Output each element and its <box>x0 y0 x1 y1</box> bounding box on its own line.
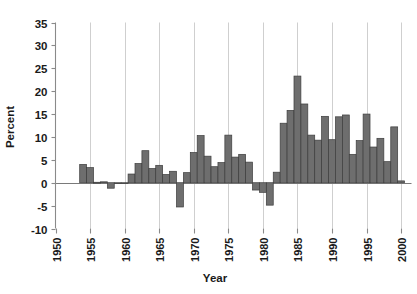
bar <box>197 136 204 183</box>
bar <box>377 138 384 182</box>
y-tick-label: 15 <box>35 109 48 121</box>
bar <box>391 127 398 183</box>
x-axis-title-group: Year <box>203 272 228 284</box>
y-axis-title-group: Percent <box>4 106 16 148</box>
bar <box>170 171 177 182</box>
bar <box>80 164 87 182</box>
x-axis-title: Year <box>203 272 228 284</box>
x-tick-label: 1970 <box>189 238 201 262</box>
bar <box>114 183 121 184</box>
bar <box>100 182 107 183</box>
bar <box>142 151 149 183</box>
bar <box>329 140 336 183</box>
bar <box>384 162 391 183</box>
x-axis-group: 1950195519601965197019751980198519901995… <box>51 229 408 262</box>
x-tick-label: 1955 <box>85 238 97 262</box>
y-tick-label: 0 <box>41 178 47 190</box>
bar <box>308 135 315 183</box>
x-tick-label: 1965 <box>154 238 166 262</box>
bar <box>190 153 197 183</box>
y-tick-label: 35 <box>35 18 48 30</box>
bar <box>225 135 232 183</box>
bar <box>246 162 253 183</box>
x-tick-label: 1995 <box>362 238 374 262</box>
bar <box>107 183 114 188</box>
x-tick-label: 1985 <box>292 238 304 262</box>
y-tick-label: 10 <box>35 132 48 144</box>
y-tick-label: -5 <box>37 201 48 213</box>
y-tick-label: -10 <box>31 224 48 236</box>
bar <box>287 110 294 182</box>
bar <box>363 114 370 183</box>
bar <box>356 141 363 183</box>
x-tick-label: 2000 <box>396 238 408 262</box>
bar <box>239 154 246 182</box>
bar <box>370 147 377 183</box>
bar <box>211 167 218 183</box>
bar <box>335 117 342 183</box>
x-tick-label: 1980 <box>258 238 270 262</box>
bar <box>315 140 322 183</box>
x-tick-label: 1990 <box>327 238 339 262</box>
bar <box>259 183 266 193</box>
bar <box>163 174 170 182</box>
y-axis-title: Percent <box>4 106 16 148</box>
bar <box>204 156 211 183</box>
chart-canvas: 35302520151050-5-10 19501955196019651970… <box>0 0 417 294</box>
bar <box>87 168 94 183</box>
y-tick-label: 20 <box>35 86 48 98</box>
x-tick-label: 1975 <box>223 238 235 262</box>
bar <box>176 183 183 207</box>
bar <box>183 173 190 183</box>
y-tick-label: 5 <box>41 155 48 167</box>
bar <box>128 174 135 183</box>
bar <box>156 165 163 182</box>
bar <box>301 104 308 183</box>
bar <box>398 181 405 183</box>
bars-group <box>80 76 405 207</box>
bar <box>273 172 280 183</box>
bar-chart: 35302520151050-5-10 19501955196019651970… <box>0 0 417 294</box>
gridlines-group <box>56 23 412 229</box>
bar <box>218 163 225 183</box>
bar <box>266 183 273 205</box>
bar <box>135 164 142 183</box>
bar <box>349 154 356 182</box>
bar <box>322 116 329 182</box>
bar <box>280 123 287 183</box>
bar <box>232 157 239 183</box>
bar <box>342 115 349 183</box>
y-tick-label: 30 <box>35 40 48 52</box>
bar <box>121 183 128 184</box>
x-tick-label: 1960 <box>120 238 132 262</box>
bar <box>149 169 156 183</box>
y-tick-label: 25 <box>35 63 48 75</box>
x-tick-label: 1950 <box>51 238 63 262</box>
y-axis-group: 35302520151050-5-10 <box>31 18 56 236</box>
bar <box>294 76 301 183</box>
bar <box>94 182 101 183</box>
bar <box>253 183 260 190</box>
